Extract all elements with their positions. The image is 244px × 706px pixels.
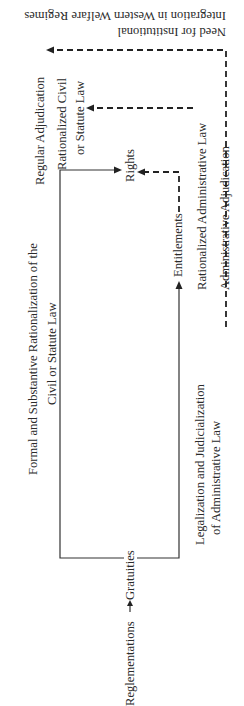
caption-line-2: Integration in Western Welfare Regimes	[24, 9, 226, 23]
edge-gratuities-to-rights	[60, 170, 124, 558]
node-reglementations: Reglementations	[123, 621, 137, 706]
arrowhead-civil-law	[86, 105, 94, 112]
node-rationalized-civil-line-1: Rationalized Civil	[55, 78, 69, 170]
node-rationalized-civil-line-2: or Statute Law	[73, 80, 87, 155]
edge-gratuities-to-entitlements	[137, 288, 179, 558]
diagram: Need for Institutional Integration in We…	[0, 0, 244, 706]
arrowhead-rights-dashed	[137, 169, 145, 176]
node-administrative-adjudication: Administrative Adjudication	[218, 146, 232, 290]
edge-entitlements-to-rights	[143, 172, 179, 212]
node-rights: Rights	[123, 149, 137, 182]
edge-label-formal-line-2: Civil or Statute Law	[45, 302, 59, 405]
edge-label-legalization-line-1: Legalization and Judicialization	[193, 383, 207, 545]
node-gratuities: Gratuities	[123, 550, 137, 600]
edge-label-formal-line-1: Formal and Substantive Rationalization o…	[26, 243, 40, 475]
diagram-canvas: Need for Institutional Integration in We…	[0, 0, 244, 706]
node-rationalized-administrative-law: Rationalized Administrative Law	[195, 122, 209, 290]
edge-label-legalization-line-2: of Administrative Law	[209, 420, 223, 535]
arrowhead-regular-adjudication	[46, 47, 54, 54]
caption-line-1: Need for Institutional	[117, 25, 226, 39]
node-entitlements: Entitlements	[171, 213, 185, 277]
arrowhead-rights-solid	[114, 167, 122, 174]
node-regular-adjudication: Regular Adjudication	[33, 76, 47, 185]
arrowhead-entitlements	[176, 281, 183, 289]
